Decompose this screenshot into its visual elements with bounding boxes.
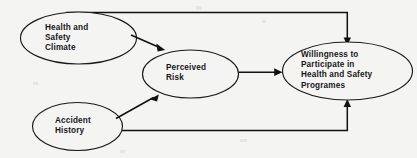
edge-line: [113, 105, 347, 131]
arrowhead-icon: [156, 44, 165, 52]
edge-accident-to-willingness: [113, 99, 351, 130]
node-health-safety-climate[interactable]: [21, 12, 137, 64]
node-willingness-to-participate[interactable]: [283, 42, 413, 100]
arrowhead-icon: [150, 95, 159, 102]
diagram-graphics: [0, 0, 417, 158]
edge-accident-to-risk: [116, 95, 159, 119]
edge-risk-to-willingness: [239, 68, 283, 76]
node-perceived-risk[interactable]: [143, 50, 239, 98]
diagram-canvas: Health and Safety Climate Accident Histo…: [0, 0, 417, 158]
node-accident-history[interactable]: [33, 103, 123, 151]
arrowhead-icon: [274, 68, 282, 76]
edge-climate-to-risk: [131, 35, 165, 52]
edge-line: [116, 98, 154, 119]
